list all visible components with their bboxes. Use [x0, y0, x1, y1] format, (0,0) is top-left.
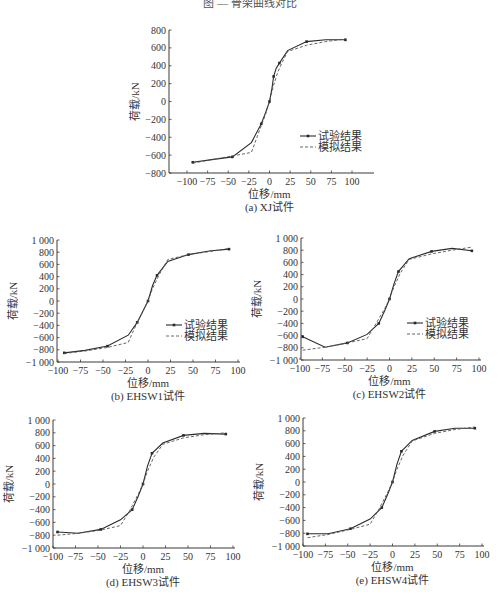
x-tick-label: 50	[188, 365, 198, 376]
data-point-marker	[430, 250, 433, 253]
y-tick-label: 200	[35, 466, 50, 477]
y-tick-label: −400	[29, 504, 50, 515]
y-tick-label: −800	[145, 168, 166, 179]
y-tick-label: 200	[39, 283, 54, 294]
y-axis-label: 荷载/kN	[251, 280, 263, 319]
x-tick-label: −75	[200, 176, 216, 187]
x-tick-label: 75	[452, 363, 462, 374]
data-point-marker	[56, 531, 59, 534]
x-tick-label: −50	[220, 176, 236, 187]
x-axis-label: 位移/mm	[371, 560, 414, 573]
y-tick-label: 400	[35, 453, 50, 464]
y-tick-label: 0	[45, 479, 50, 490]
y-tick-label: −400	[279, 502, 300, 513]
y-tick-label: −800	[33, 344, 54, 355]
y-tick-label: 600	[285, 438, 300, 449]
x-tick-label: 50	[183, 551, 193, 562]
y-tick-label: −200	[279, 489, 300, 500]
test-result-line	[308, 428, 475, 534]
x-tick-label: 25	[407, 363, 417, 374]
x-axis-label: 位移/mm	[248, 187, 291, 200]
data-point-marker	[228, 248, 231, 251]
y-tick-label: 0	[295, 477, 300, 488]
y-tick-label: 200	[285, 464, 300, 475]
figure: 图 — 骨架曲线对比 −800−600−400−2000200400600800…	[0, 0, 500, 602]
x-tick-label: 75	[211, 365, 221, 376]
x-tick-label: 0	[390, 549, 395, 560]
x-tick-label: −100	[43, 551, 64, 562]
chart-caption: (a) XJ试件	[245, 201, 294, 214]
legend: 试验结果模拟结果	[300, 129, 362, 153]
legend-sim-label: 模拟结果	[184, 329, 228, 342]
x-tick-label: −100	[293, 549, 314, 560]
y-tick-label: 1 000	[276, 233, 299, 244]
x-tick-label: 100	[345, 176, 360, 187]
x-tick-label: −25	[362, 549, 378, 560]
x-tick-label: −50	[95, 365, 111, 376]
y-tick-label: −200	[277, 306, 298, 317]
figure-title: 图 — 骨架曲线对比	[0, 0, 500, 10]
data-point-marker	[471, 250, 474, 253]
data-point-marker	[305, 40, 308, 43]
x-tick-label: −75	[315, 363, 331, 374]
y-tick-label: 800	[35, 427, 50, 438]
chart-d: −1 000−800−600−400−20002004006008001 000…	[3, 415, 241, 590]
x-tick-label: 100	[472, 363, 487, 374]
data-point-marker	[380, 506, 383, 509]
y-tick-label: 1 000	[32, 235, 55, 246]
x-tick-label: 75	[206, 551, 216, 562]
x-tick-label: −100	[48, 365, 69, 376]
chart-b: −1 000−800−600−400−20002004006008001 000…	[7, 235, 246, 404]
x-axis-label: 位移/mm	[127, 376, 170, 389]
x-tick-label: −75	[318, 549, 334, 560]
y-tick-label: −600	[33, 332, 54, 343]
y-tick-label: −200	[29, 491, 50, 502]
x-tick-label: 0	[146, 365, 151, 376]
y-axis-label: 荷载/kN	[3, 465, 15, 504]
charts-canvas: −800−600−400−2000200400600800−100−75−50−…	[0, 0, 500, 602]
y-tick-label: 800	[151, 25, 166, 36]
y-tick-label: 200	[283, 281, 298, 292]
x-tick-label: −25	[359, 363, 375, 374]
y-tick-label: 600	[35, 440, 50, 451]
y-tick-label: −600	[279, 515, 300, 526]
x-tick-label: 25	[161, 551, 171, 562]
y-tick-label: 600	[151, 42, 166, 53]
x-tick-label: 25	[410, 549, 420, 560]
x-tick-label: 0	[141, 551, 146, 562]
x-tick-label: 50	[429, 363, 439, 374]
y-tick-label: 0	[49, 296, 54, 307]
data-point-marker	[377, 322, 380, 325]
y-tick-label: −600	[277, 330, 298, 341]
y-tick-label: 800	[283, 245, 298, 256]
x-tick-label: 100	[226, 551, 241, 562]
legend-sim-label: 模拟结果	[318, 140, 362, 153]
legend-sim-label: 模拟结果	[425, 327, 469, 340]
y-axis-label: 荷载/kN	[129, 82, 141, 121]
legend: 试验结果模拟结果	[407, 316, 469, 340]
y-axis-label: 荷载/kN	[7, 282, 19, 321]
x-tick-label: 75	[326, 176, 336, 187]
x-tick-label: 100	[475, 549, 490, 560]
x-tick-label: −50	[90, 551, 106, 562]
x-tick-label: −100	[290, 363, 311, 374]
y-tick-label: 1 000	[28, 415, 51, 426]
x-axis-label: 位移/mm	[368, 374, 411, 387]
chart-c: −1 000−800−600−400−20002004006008001 000…	[251, 233, 487, 402]
x-tick-label: −50	[340, 549, 356, 560]
y-tick-label: −200	[33, 308, 54, 319]
x-tick-label: 100	[231, 365, 246, 376]
y-tick-label: −400	[277, 318, 298, 329]
x-tick-label: −100	[177, 176, 198, 187]
x-tick-label: −25	[118, 365, 134, 376]
y-tick-label: −800	[29, 530, 50, 541]
y-tick-label: 1 000	[278, 413, 301, 424]
x-tick-label: 50	[306, 176, 316, 187]
x-axis-label: 位移/mm	[122, 562, 165, 575]
data-point-marker	[433, 430, 436, 433]
x-tick-label: −50	[337, 363, 353, 374]
data-point-marker	[151, 452, 154, 455]
legend: 试验结果模拟结果	[166, 318, 228, 342]
simulation-line	[308, 427, 475, 538]
x-tick-label: 0	[267, 176, 272, 187]
